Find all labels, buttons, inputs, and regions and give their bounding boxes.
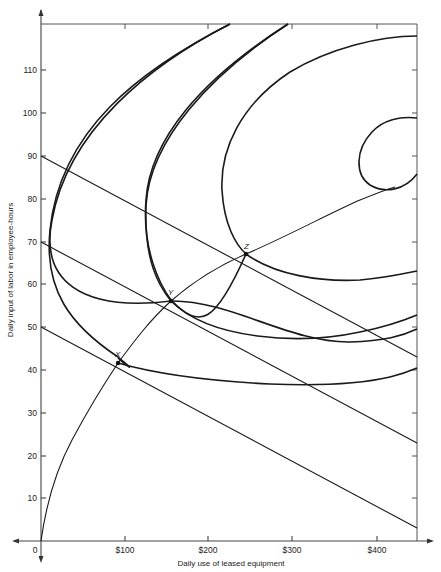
plot-frame — [41, 24, 417, 541]
arrow-up-icon — [39, 9, 44, 16]
y-tick-90: 90 — [28, 151, 38, 161]
isoquant-3-main — [146, 24, 417, 338]
y-axis-title: Daily input of labor in employee-hours — [6, 203, 15, 337]
y-tick-40: 40 — [28, 365, 38, 375]
isoquant-4 — [222, 36, 417, 280]
x-tick-300: $300 — [283, 545, 302, 555]
point-z-marker — [244, 252, 248, 256]
point-y-label: Y — [168, 288, 174, 297]
x-axis — [12, 536, 434, 544]
y-tick-labels: 110 100 90 80 70 60 50 40 30 20 10 — [23, 65, 37, 503]
isoquant-2 — [49, 24, 230, 367]
isocost-line-3 — [41, 156, 417, 357]
isoquant-3 — [145, 24, 288, 317]
arrow-left-icon — [12, 539, 19, 544]
isoquant-chart: 110 100 90 80 70 60 50 40 30 20 10 0 $10… — [0, 0, 441, 572]
isoquants — [49, 24, 417, 385]
x-tick-0: 0 — [33, 545, 38, 555]
x-tick-100: $100 — [116, 545, 135, 555]
y-tick-60: 60 — [28, 279, 38, 289]
y-tick-110: 110 — [23, 65, 37, 75]
point-y-marker — [169, 299, 173, 303]
y-tick-80: 80 — [28, 194, 38, 204]
isoquant-5 — [359, 118, 417, 190]
y-tick-30: 30 — [28, 408, 38, 418]
y-tick-50: 50 — [28, 322, 38, 332]
arrow-right-icon — [427, 539, 434, 544]
point-x-label: X — [114, 350, 121, 359]
isoquant-1 — [118, 363, 417, 385]
point-x-marker — [116, 361, 120, 365]
arrow-down-icon — [39, 556, 44, 563]
y-tick-70: 70 — [28, 237, 38, 247]
x-tick-labels: 0 $100 $200 $300 $400 — [33, 545, 387, 555]
x-tick-400: $400 — [368, 545, 387, 555]
x-axis-title: Daily use of leased equipment — [177, 559, 285, 568]
x-tick-200: $200 — [199, 545, 218, 555]
y-tick-100: 100 — [23, 108, 37, 118]
y-tick-20: 20 — [28, 451, 38, 461]
isoquant-2-main — [50, 24, 417, 342]
y-tick-10: 10 — [28, 493, 38, 503]
isocost-line-1 — [41, 327, 417, 528]
point-z-label: Z — [243, 242, 250, 251]
y-axis — [39, 9, 47, 563]
